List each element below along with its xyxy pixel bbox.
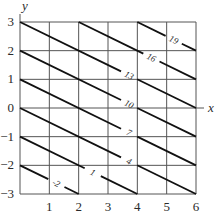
- x-tick-label: 3: [105, 199, 112, 214]
- x-axis-label: x: [207, 100, 214, 115]
- level-label: 19: [167, 33, 180, 46]
- level-line: [20, 165, 48, 179]
- y-tick-label: 3: [8, 14, 15, 29]
- level-label: 1: [89, 167, 97, 178]
- grid: [20, 22, 196, 194]
- level-line: [64, 187, 78, 194]
- level-line: [101, 176, 138, 194]
- y-tick-label: 0: [8, 100, 15, 115]
- level-line: [79, 22, 144, 54]
- level-line: [20, 79, 121, 128]
- level-label: 13: [123, 69, 136, 82]
- level-line: [137, 22, 165, 36]
- y-tick-label: 1: [8, 71, 15, 86]
- y-tick-label: −1: [0, 129, 14, 144]
- level-labels: -214710131619: [51, 33, 181, 189]
- y-axis-label: y: [20, 0, 28, 13]
- level-line: [159, 61, 196, 79]
- y-tick-label: −2: [0, 157, 14, 172]
- x-tick-label: 1: [46, 199, 53, 214]
- x-tick-label: 5: [163, 199, 170, 214]
- contour-plot: 3210−1−2−3123456xy -214710131619: [0, 0, 219, 216]
- axes: 3210−1−2−3123456xy: [0, 0, 214, 214]
- level-line: [182, 44, 196, 51]
- y-tick-label: 2: [8, 43, 15, 58]
- x-tick-label: 4: [134, 199, 141, 214]
- level-line: [20, 22, 121, 71]
- level-line: [20, 137, 85, 169]
- level-label: 16: [145, 51, 158, 64]
- y-tick-label: −3: [0, 186, 14, 201]
- level-line: [20, 51, 121, 100]
- x-tick-label: 6: [193, 199, 200, 214]
- x-tick-label: 2: [75, 199, 82, 214]
- level-label: -2: [51, 177, 63, 189]
- level-label: 10: [123, 98, 136, 111]
- level-line: [20, 108, 121, 157]
